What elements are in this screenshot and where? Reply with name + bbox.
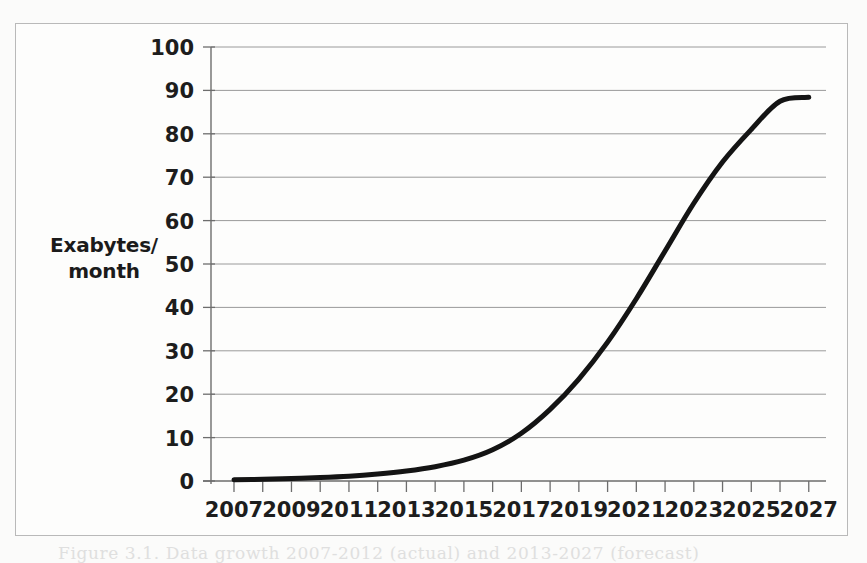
x-axis-tick-label: 2011 xyxy=(320,498,378,522)
x-axis-tick-label: 2021 xyxy=(607,498,665,522)
y-axis-tick-label: 60 xyxy=(165,210,194,234)
figure-caption: Figure 3.1. Data growth 2007-2012 (actua… xyxy=(58,543,858,563)
y-axis-tick-label: 20 xyxy=(165,383,194,407)
y-axis-tick-label: 40 xyxy=(165,296,194,320)
y-axis-tick-label: 10 xyxy=(165,427,194,451)
x-axis-tick-label: 2023 xyxy=(665,498,723,522)
y-axis-tick-label: 30 xyxy=(165,340,194,364)
y-axis-tick-label: 80 xyxy=(165,123,194,147)
x-axis-tick-label: 2025 xyxy=(722,498,780,522)
x-axis-tick-label: 2007 xyxy=(205,498,263,522)
x-axis-tick-label: 2017 xyxy=(492,498,550,522)
x-axis-tick-label: 2019 xyxy=(550,498,608,522)
y-axis-tick-label: 100 xyxy=(150,36,194,60)
x-axis-tick-label: 2027 xyxy=(780,498,838,522)
y-axis-tick-label: 70 xyxy=(165,166,194,190)
y-axis-tick-label: 0 xyxy=(179,470,194,494)
x-axis-tick-label: 2015 xyxy=(435,498,493,522)
data-series-line xyxy=(234,97,809,479)
y-axis-tick-label: 90 xyxy=(165,79,194,103)
y-axis-tick-label: 50 xyxy=(165,253,194,277)
x-axis-tick-label: 2009 xyxy=(262,498,320,522)
x-axis-tick-label: 2013 xyxy=(377,498,435,522)
